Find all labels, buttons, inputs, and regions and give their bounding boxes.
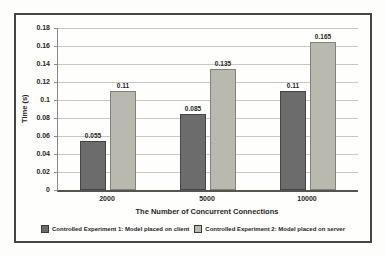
bar-series-1: 0.085 <box>180 114 206 191</box>
y-tick-label: 0.04 <box>36 150 50 158</box>
bar-group: 0.0550.11 <box>58 28 158 190</box>
bar-value-label: 0.055 <box>85 132 101 139</box>
bar-series-2: 0.11 <box>110 91 136 190</box>
legend-swatch <box>41 225 49 233</box>
bar-value-label: 0.11 <box>117 82 129 89</box>
legend-item: Controlled Experiment 2: Model placed on… <box>194 225 345 233</box>
chart-frame: Time (s) 00.020.040.060.080.10.120.140.1… <box>14 13 372 243</box>
bar-value-label: 0.135 <box>215 60 231 67</box>
bar-value-label: 0.11 <box>287 82 299 89</box>
y-tick-mark <box>54 190 58 191</box>
y-axis-ticks: 00.020.040.060.080.10.120.140.160.18 <box>16 28 54 198</box>
x-category-label: 10000 <box>257 195 357 202</box>
bar-group: 0.0850.135 <box>158 28 258 190</box>
x-axis-title: The Number of Concurrent Connections <box>57 207 357 216</box>
y-tick-label: 0.14 <box>36 60 50 68</box>
y-tick-label: 0.12 <box>36 78 50 86</box>
bar-value-label: 0.085 <box>185 105 201 112</box>
y-tick-label: 0.06 <box>36 132 50 140</box>
plot-area: 0.0550.110.0850.1350.110.165 <box>57 28 358 192</box>
bar-series-1: 0.055 <box>80 141 106 191</box>
bar-series-2: 0.135 <box>210 69 236 191</box>
bar-value-label: 0.165 <box>315 33 331 40</box>
legend-item: Controlled Experiment 1: Model placed on… <box>41 225 189 233</box>
x-axis-labels: 2000500010000 <box>57 195 357 202</box>
legend: Controlled Experiment 1: Model placed on… <box>16 225 370 233</box>
y-tick-label: 0.08 <box>36 114 50 122</box>
legend-label: Controlled Experiment 1: Model placed on… <box>52 226 189 232</box>
y-tick-label: 0.18 <box>36 24 50 32</box>
bar-series-1: 0.11 <box>280 91 306 190</box>
y-tick-label: 0.02 <box>36 168 50 176</box>
scanned-chart-figure: Time (s) 00.020.040.060.080.10.120.140.1… <box>0 0 386 257</box>
bar-group: 0.110.165 <box>258 28 358 190</box>
legend-label: Controlled Experiment 2: Model placed on… <box>205 226 345 232</box>
bar-groups: 0.0550.110.0850.1350.110.165 <box>58 28 358 190</box>
x-category-label: 5000 <box>157 195 257 202</box>
legend-swatch <box>194 225 202 233</box>
x-category-label: 2000 <box>57 195 157 202</box>
bar-series-2: 0.165 <box>310 42 336 191</box>
y-tick-label: 0.16 <box>36 42 50 50</box>
y-tick-label: 0 <box>46 186 50 194</box>
y-tick-label: 0.1 <box>40 96 50 104</box>
